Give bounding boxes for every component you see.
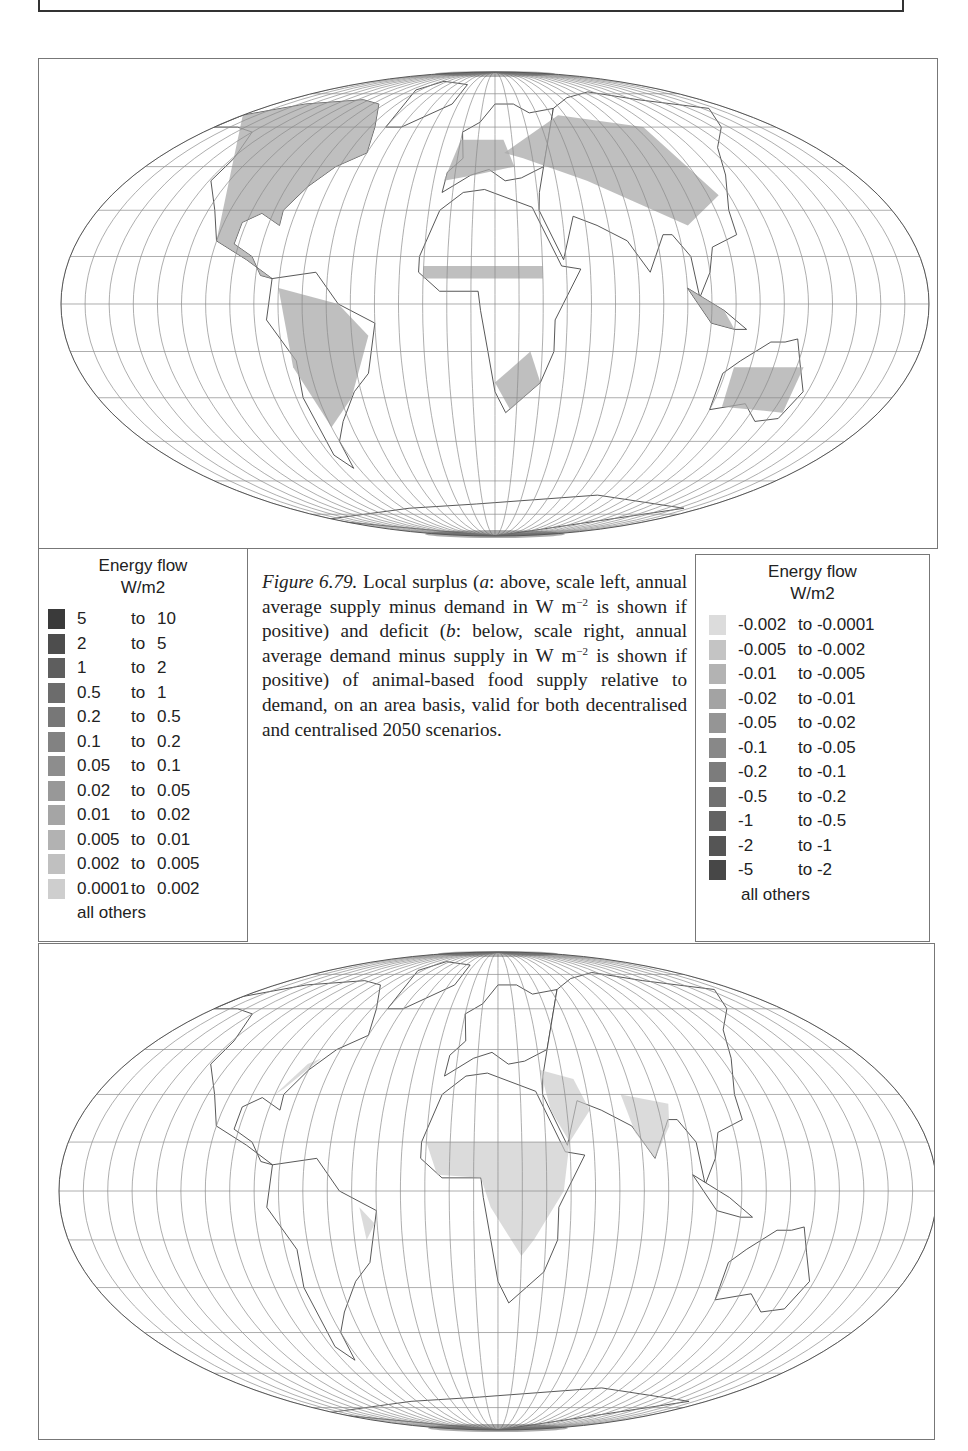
legend-row: -0.05to -0.02 xyxy=(709,711,929,736)
legend-row: -0.002to -0.0001 xyxy=(709,613,929,638)
legend-caption-band: Energy flow W/m2 5to 102to 51to 20.5to 1… xyxy=(38,548,930,942)
range-high: -0.01 xyxy=(817,689,856,709)
range-high: -0.002 xyxy=(817,640,865,660)
legend-row: 0.01to 0.02 xyxy=(48,803,247,828)
range-sep: to xyxy=(798,738,817,758)
legend-deficit: Energy flow W/m2 -0.002to -0.0001-0.005t… xyxy=(695,554,930,942)
legend-row: 0.002to 0.005 xyxy=(48,852,247,877)
range-sep: to xyxy=(798,811,817,831)
range-low: -0.01 xyxy=(738,664,798,684)
range-high: 0.1 xyxy=(157,756,181,776)
range-sep: to xyxy=(131,707,157,727)
legend-surplus: Energy flow W/m2 5to 102to 51to 20.5to 1… xyxy=(38,548,248,942)
legend-swatch xyxy=(48,830,65,850)
range-low: 0.01 xyxy=(77,805,131,825)
legend-swatch xyxy=(48,781,65,801)
range-high: 0.01 xyxy=(157,830,190,850)
legend-title-unit: W/m2 xyxy=(696,583,929,605)
range-high: 0.5 xyxy=(157,707,181,727)
legend-row: -1to -0.5 xyxy=(709,809,929,834)
range-high: -0.1 xyxy=(817,762,846,782)
legend-swatch xyxy=(48,879,65,899)
range-high: -1 xyxy=(817,836,832,856)
range-high: 2 xyxy=(157,658,166,678)
legend-row: 0.0001to 0.002 xyxy=(48,877,247,902)
legend-swatch xyxy=(709,689,726,709)
range-sep: to xyxy=(798,860,817,880)
legend-row: -0.005to -0.002 xyxy=(709,638,929,663)
range-low: 0.1 xyxy=(77,732,131,752)
legend-title: Energy flow W/m2 xyxy=(39,555,247,599)
range-sep: to xyxy=(798,713,817,733)
legend-swatch xyxy=(709,738,726,758)
range-high: -0.2 xyxy=(817,787,846,807)
range-sep: to xyxy=(131,756,157,776)
legend-swatch xyxy=(48,707,65,727)
legend-row: 0.5to 1 xyxy=(48,681,247,706)
range-sep: to xyxy=(131,805,157,825)
range-high: 10 xyxy=(157,609,176,629)
legend-row: 0.1to 0.2 xyxy=(48,730,247,755)
range-sep: to xyxy=(798,689,817,709)
range-low: -1 xyxy=(738,811,798,831)
legend-row-others: all others xyxy=(48,901,247,926)
range-high: -0.0001 xyxy=(817,615,875,635)
legend-swatch xyxy=(48,805,65,825)
caption-text: Figure 6.79. Local surplus (a: above, sc… xyxy=(262,570,687,742)
legend-row: 0.2to 0.5 xyxy=(48,705,247,730)
range-sep: to xyxy=(131,683,157,703)
range-high: -0.005 xyxy=(817,664,865,684)
range-low: -0.02 xyxy=(738,689,798,709)
world-map-surplus xyxy=(39,59,937,548)
legend-row: -0.01to -0.005 xyxy=(709,662,929,687)
range-high: -0.05 xyxy=(817,738,856,758)
range-high: 0.2 xyxy=(157,732,181,752)
range-sep: to xyxy=(798,640,817,660)
range-high: 5 xyxy=(157,634,166,654)
range-low: -0.05 xyxy=(738,713,798,733)
legend-swatch xyxy=(709,811,726,831)
range-low: 0.05 xyxy=(77,756,131,776)
legend-swatch xyxy=(48,854,65,874)
range-low: -0.2 xyxy=(738,762,798,782)
legend-swatch xyxy=(709,860,726,880)
legend-swatch xyxy=(709,836,726,856)
range-low: 1 xyxy=(77,658,131,678)
legend-swatch xyxy=(709,787,726,807)
range-sep: to xyxy=(131,732,157,752)
legend-row: 1to 2 xyxy=(48,656,247,681)
range-sep: to xyxy=(131,854,157,874)
range-sep: to xyxy=(131,879,157,899)
legend-row: 5to 10 xyxy=(48,607,247,632)
range-low: 0.0001 xyxy=(77,879,131,899)
caption-fragment: −2 xyxy=(576,645,588,657)
map-surplus xyxy=(38,58,938,549)
range-high: 0.005 xyxy=(157,854,200,874)
legend-row: -0.5to -0.2 xyxy=(709,785,929,810)
range-low: 0.002 xyxy=(77,854,131,874)
legend-swatch xyxy=(48,609,65,629)
legend-row-others: all others xyxy=(709,883,929,908)
running-head-box: SYSTEMS xyxy=(38,0,904,12)
range-high: -2 xyxy=(817,860,832,880)
legend-row: -0.1to -0.05 xyxy=(709,736,929,761)
range-low: -0.002 xyxy=(738,615,798,635)
legend-title-unit: W/m2 xyxy=(39,577,247,599)
range-sep: to xyxy=(131,658,157,678)
legend-row: 2to 5 xyxy=(48,632,247,657)
caption-fragment: Local surplus ( xyxy=(357,571,479,592)
range-low: -5 xyxy=(738,860,798,880)
legend-row: -0.02to -0.01 xyxy=(709,687,929,712)
legend-swatch xyxy=(709,713,726,733)
legend-rows: -0.002to -0.0001-0.005to -0.002-0.01to -… xyxy=(696,613,929,907)
legend-title: Energy flow W/m2 xyxy=(696,561,929,605)
range-sep: to xyxy=(131,609,157,629)
legend-row: -5to -2 xyxy=(709,858,929,883)
range-low: -0.005 xyxy=(738,640,798,660)
legend-swatch xyxy=(48,634,65,654)
range-sep: to xyxy=(798,664,817,684)
caption-fragment: −2 xyxy=(576,596,588,608)
legend-row: 0.02to 0.05 xyxy=(48,779,247,804)
map-deficit xyxy=(38,943,935,1440)
legend-swatch xyxy=(709,640,726,660)
